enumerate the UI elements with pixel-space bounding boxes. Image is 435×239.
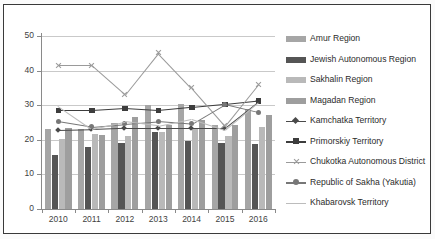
- bar-jewish-autonomous-region: [185, 141, 191, 209]
- bar-amur-region: [212, 125, 218, 209]
- legend-swatch-icon: [286, 57, 306, 63]
- legend-label: Chukotka Autonomous District: [310, 155, 425, 167]
- marker-x-chukotka-autonomous-district: [121, 91, 128, 98]
- marker-x-chukotka-autonomous-district: [255, 81, 262, 88]
- x-axis-label: 2010: [41, 214, 75, 224]
- marker-square-primorskiy-territory: [122, 106, 128, 112]
- legend-marker-circle-icon: [293, 179, 299, 185]
- y-axis: [41, 33, 42, 210]
- line-segment-primorskiy-territory: [125, 108, 158, 111]
- x-axis-tick: [142, 209, 143, 213]
- legend-marker-x-icon: [293, 158, 300, 165]
- x-axis-label: 2015: [208, 214, 242, 224]
- bar-jewish-autonomous-region: [152, 132, 158, 209]
- x-axis-tick: [175, 209, 176, 213]
- x-axis-tick: [75, 209, 76, 213]
- bar-amur-region: [145, 105, 151, 209]
- x-axis-tick: [275, 209, 276, 213]
- bar-magadan-region: [232, 125, 238, 209]
- x-axis: [41, 209, 275, 210]
- legend-label: Sakhalin Region: [310, 73, 373, 85]
- bar-jewish-autonomous-region: [218, 143, 224, 209]
- y-axis-label: 40: [12, 66, 34, 75]
- marker-square-primorskiy-territory: [89, 108, 95, 114]
- marker-circle-republic-of-sakha-yakutia-: [256, 110, 261, 115]
- legend-label: Kamchatka Territory: [310, 114, 386, 126]
- chart-legend: Amur RegionJewish Autonomous RegionSakha…: [286, 30, 432, 215]
- y-axis-label: 30: [12, 100, 34, 109]
- x-axis-tick: [242, 209, 243, 213]
- bar-amur-region: [78, 129, 84, 209]
- x-axis-label: 2011: [75, 214, 109, 224]
- legend-item-primorskiy-territory[interactable]: Primorskiy Territory: [286, 133, 432, 154]
- bar-magadan-region: [166, 125, 172, 209]
- marker-circle-republic-of-sakha-yakutia-: [189, 121, 194, 126]
- legend-label: Magadan Region: [310, 94, 375, 106]
- legend-swatch-icon: [286, 77, 306, 83]
- bar-jewish-autonomous-region: [85, 147, 91, 209]
- legend-line-icon: [286, 203, 306, 205]
- y-axis-label: 20: [12, 135, 34, 144]
- y-axis-label: 50: [12, 31, 34, 40]
- bar-amur-region: [111, 123, 117, 209]
- legend-marker-square-icon: [293, 138, 299, 144]
- bar-magadan-region: [99, 135, 105, 209]
- y-axis-label: 0: [12, 204, 34, 213]
- bar-magadan-region: [199, 120, 205, 209]
- marker-square-primorskiy-territory: [156, 108, 162, 114]
- x-axis-tick: [108, 209, 109, 213]
- y-axis-label: 10: [12, 169, 34, 178]
- line-segment-primorskiy-territory: [158, 107, 191, 111]
- legend-swatch-icon: [286, 36, 306, 42]
- legend-marker-diamond-icon: [292, 117, 299, 124]
- legend-label: Khabarovsk Territory: [310, 196, 389, 208]
- legend-item-magadan-region[interactable]: Magadan Region: [286, 92, 432, 113]
- bar-jewish-autonomous-region: [52, 155, 58, 209]
- bar-magadan-region: [266, 115, 272, 209]
- x-axis-tick: [208, 209, 209, 213]
- bar-jewish-autonomous-region: [252, 144, 258, 209]
- line-segment-kamchatka-territory: [58, 129, 91, 131]
- line-segment-kamchatka-territory: [125, 128, 158, 129]
- bar-jewish-autonomous-region: [118, 143, 124, 209]
- bar-sakhalin-region: [92, 134, 98, 209]
- line-segment-chukotka-autonomous-district: [58, 65, 91, 66]
- legend-item-sakhalin-region[interactable]: Sakhalin Region: [286, 71, 432, 92]
- bar-sakhalin-region: [125, 136, 131, 209]
- marker-x-chukotka-autonomous-district: [188, 84, 195, 91]
- bar-amur-region: [245, 109, 251, 209]
- marker-square-primorskiy-territory: [189, 105, 195, 111]
- x-axis-label: 2013: [141, 214, 175, 224]
- marker-circle-republic-of-sakha-yakutia-: [156, 119, 161, 124]
- legend-label: Primorskiy Territory: [310, 135, 383, 147]
- bar-amur-region: [45, 129, 51, 209]
- screenshot-frame: 010203040502010201120122013201420152016 …: [0, 0, 435, 239]
- gridline: [41, 36, 275, 37]
- marker-x-chukotka-autonomous-district: [88, 62, 95, 69]
- legend-label: Republic of Sakha (Yakutia): [310, 176, 416, 188]
- legend-item-chukotka-autonomous-district[interactable]: Chukotka Autonomous District: [286, 153, 432, 174]
- bar-sakhalin-region: [225, 136, 231, 209]
- x-axis-label: 2014: [175, 214, 209, 224]
- legend-item-kamchatka-territory[interactable]: Kamchatka Territory: [286, 112, 432, 133]
- legend-item-khabarovsk-territory[interactable]: Khabarovsk Territory: [286, 194, 432, 215]
- legend-item-republic-of-sakha-yakutia-[interactable]: Republic of Sakha (Yakutia): [286, 174, 432, 195]
- x-axis-label: 2012: [108, 214, 142, 224]
- line-segment-primorskiy-territory: [92, 108, 125, 111]
- legend-item-jewish-autonomous-region[interactable]: Jewish Autonomous Region: [286, 51, 432, 72]
- bar-magadan-region: [65, 128, 71, 209]
- line-segment-kamchatka-territory: [158, 128, 191, 129]
- marker-diamond-kamchatka-territory: [55, 127, 61, 133]
- gridline: [41, 71, 275, 72]
- x-axis-label: 2016: [241, 214, 275, 224]
- legend-label: Jewish Autonomous Region: [310, 53, 416, 65]
- legend-item-amur-region[interactable]: Amur Region: [286, 30, 432, 51]
- bar-sakhalin-region: [159, 132, 165, 209]
- bar-sakhalin-region: [259, 127, 265, 209]
- bar-magadan-region: [132, 117, 138, 209]
- x-axis-tick: [42, 209, 43, 213]
- bar-sakhalin-region: [192, 129, 198, 209]
- marker-circle-republic-of-sakha-yakutia-: [56, 119, 61, 124]
- bar-sakhalin-region: [59, 139, 65, 209]
- marker-x-chukotka-autonomous-district: [55, 62, 62, 69]
